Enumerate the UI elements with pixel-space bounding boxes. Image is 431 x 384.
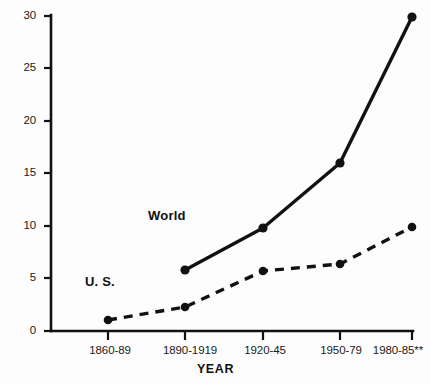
y-tick-label-5: 5	[6, 271, 36, 283]
series-line-world	[185, 17, 412, 270]
plot-area	[0, 0, 431, 384]
y-tick-label-15: 15	[6, 166, 36, 178]
x-tick-label-1950-79: 1950-79	[320, 344, 362, 356]
y-tick-label-0: 0	[6, 324, 36, 336]
series-label-us: U. S.	[85, 274, 115, 289]
x-tick-label-1920-45: 1920-45	[244, 344, 286, 356]
x-axis-ticks	[108, 331, 412, 340]
y-tick-label-25: 25	[6, 61, 36, 73]
y-tick-label-10: 10	[6, 219, 36, 231]
series-markers-us	[104, 223, 417, 325]
y-tick-label-30: 30	[6, 9, 36, 21]
x-tick-label-1890-1919: 1890-1919	[163, 344, 217, 356]
line-chart: 30 25 20 15 10 5 0 1860-89 1890-1919 192…	[0, 0, 431, 384]
x-tick-label-1860-89: 1860-89	[89, 344, 131, 356]
y-tick-label-20: 20	[6, 114, 36, 126]
series-markers-world	[180, 12, 416, 274]
x-tick-label-1980-85: 1980-85**	[373, 344, 423, 356]
series-label-world: World	[148, 208, 186, 223]
x-axis-title: YEAR	[0, 362, 431, 376]
